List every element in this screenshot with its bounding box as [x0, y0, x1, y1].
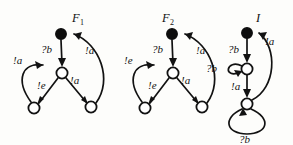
f2-label-qb: ?b — [152, 43, 164, 55]
i-state-initial[interactable] — [242, 28, 252, 38]
f2-label-a-right: !a — [196, 44, 206, 56]
i-label-qb-loop: ?b — [206, 62, 218, 74]
i-label-qb-top: ?b — [228, 43, 240, 55]
f2-state-initial[interactable] — [167, 29, 177, 39]
automata-figure: F 1 ?b !a !a !e !a — [0, 0, 293, 145]
f1-title: F — [71, 11, 80, 25]
i-title: I — [255, 11, 261, 25]
f1-state-bottom-left[interactable] — [28, 102, 39, 113]
f1-label-qb: ?b — [41, 43, 53, 55]
f2-label-a-mid: !a — [181, 74, 191, 86]
f1-label-a-right: !a — [85, 44, 95, 56]
f1-label-a-mid: !a — [70, 74, 80, 86]
f2-label-e: !e — [148, 79, 157, 91]
i-transition-qb-bottom-loop-edge — [229, 109, 265, 134]
f1-transition-a-left-arrowhead — [35, 61, 43, 69]
i-label-a-right: !a — [265, 35, 275, 47]
automaton-F1: F 1 ?b !a !a !e !a — [13, 11, 104, 114]
i-label-qb-bottom: ?b — [239, 133, 251, 145]
automaton-I: I ?b !a ?b !a ?b — [206, 11, 275, 145]
automaton-F2: F 2 ?b !a !e !e !a — [124, 11, 215, 114]
f2-transition-qb-arrowhead — [169, 58, 177, 67]
f2-title-subscript: 2 — [170, 18, 174, 27]
i-label-a-mid: !a — [231, 80, 241, 92]
f1-transition-qb-arrowhead — [58, 58, 66, 67]
f2-state-middle[interactable] — [167, 67, 178, 78]
i-transition-a-mid-arrowhead — [243, 89, 251, 98]
f1-label-e: !e — [37, 79, 46, 91]
f1-title-subscript: 1 — [80, 18, 84, 27]
f2-transition-e-left-arrowhead — [146, 61, 154, 69]
automata-diagram-canvas: F 1 ?b !a !a !e !a — [0, 0, 293, 145]
i-state-middle[interactable] — [241, 63, 252, 74]
f2-title: F — [161, 11, 170, 25]
i-transition-qb-arrowhead — [243, 54, 251, 63]
f1-state-initial[interactable] — [56, 29, 66, 39]
f1-state-bottom-right[interactable] — [85, 101, 96, 112]
f2-state-bottom-right[interactable] — [196, 101, 207, 112]
i-state-bottom[interactable] — [241, 98, 252, 109]
f1-label-a-left: !a — [13, 54, 23, 66]
f2-transition-a-right-arrowhead — [185, 32, 193, 40]
f2-label-e-left: !e — [124, 54, 133, 66]
f2-state-bottom-left[interactable] — [139, 102, 150, 113]
f1-state-middle[interactable] — [56, 67, 67, 78]
f1-transition-a-right-arrowhead — [74, 32, 82, 40]
